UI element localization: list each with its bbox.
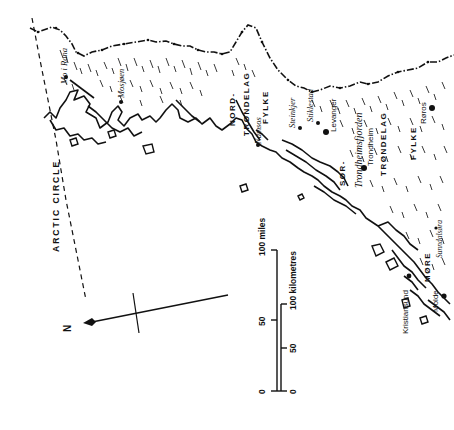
- region-label-sor-line1: SØR-: [339, 160, 347, 186]
- region-label-nord-line3: FYLKE: [262, 90, 270, 124]
- border-dots: [37, 27, 430, 94]
- place-label-molde: Molde: [432, 290, 440, 312]
- water-label-trondheimsfjorden: Trondheimsfjorden: [354, 113, 364, 188]
- region-label-nord-line2: TRØNDELAG: [243, 72, 251, 136]
- place-label-levanger: Levanger: [330, 99, 338, 132]
- place-label-stiklestad: Stiklestad: [306, 89, 315, 122]
- north-arrow: [83, 293, 228, 333]
- town-markers: [64, 75, 447, 299]
- region-label-more: MØRE: [424, 252, 432, 282]
- scale-miles-50: 50: [258, 317, 267, 326]
- scale-km-0: 0: [289, 389, 298, 394]
- scale-miles-0: 0: [258, 389, 267, 394]
- place-label-mo-i-rana: Mo i Rana: [60, 48, 69, 84]
- map-canvas: ARCTIC CIRCLE Mo i Rana Mosjøen Namsos S…: [0, 0, 454, 430]
- place-label-sunndalsora: Sunndalsøra: [436, 220, 444, 258]
- region-label-nord-line1: NORD-: [229, 92, 237, 126]
- region-label-sor-line3: FYLKE: [410, 126, 418, 160]
- place-label-trondheim: Trondheim: [367, 128, 375, 166]
- place-label-steinkjer: Steinkjer: [288, 98, 297, 128]
- arctic-circle-label: ARCTIC CIRCLE: [52, 160, 61, 252]
- place-label-kristiansund: Kristiansund: [402, 290, 410, 334]
- north-label: N: [63, 325, 73, 332]
- scale-km-50: 50: [289, 344, 298, 353]
- scale-miles-100-label: 100 miles: [258, 218, 267, 256]
- region-label-sor-line2: TRØNDELAG: [380, 112, 388, 176]
- place-label-mosjoen: Mosjøen: [117, 69, 126, 98]
- scale-bar: [271, 250, 287, 391]
- scale-km-100-label: 100 kilometres: [289, 251, 298, 310]
- place-label-roros: Røros: [420, 102, 428, 124]
